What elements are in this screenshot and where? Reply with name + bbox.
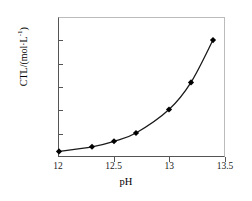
x-axis-tick-label: 12 [38, 161, 78, 171]
data-point-marker [188, 79, 194, 85]
y-axis-title-tail: ) [18, 27, 29, 30]
data-point-marker [56, 148, 62, 154]
x-axis-tick-label: 13.5 [205, 161, 245, 171]
y-axis-title-main: CTL/(mol·L [18, 36, 29, 86]
chart-figure: CTL/(mol·L-1) 00.0050.010.0150.020.0250.… [0, 0, 252, 201]
plot-area [58, 17, 225, 157]
data-series-layer [59, 18, 224, 156]
series-markers [56, 37, 216, 154]
y-axis-title: CTL/(mol·L-1) [15, 0, 28, 127]
data-point-marker [210, 37, 216, 43]
caption-strip [78, 194, 238, 200]
x-axis-tick-label: 13 [149, 161, 189, 171]
data-point-marker [133, 130, 139, 136]
x-axis-title: pH [0, 176, 252, 187]
x-axis-tick-label: 12.5 [94, 161, 134, 171]
data-point-marker [111, 138, 117, 144]
data-point-marker [89, 144, 95, 150]
y-axis-title-exponent: -1 [16, 30, 24, 36]
